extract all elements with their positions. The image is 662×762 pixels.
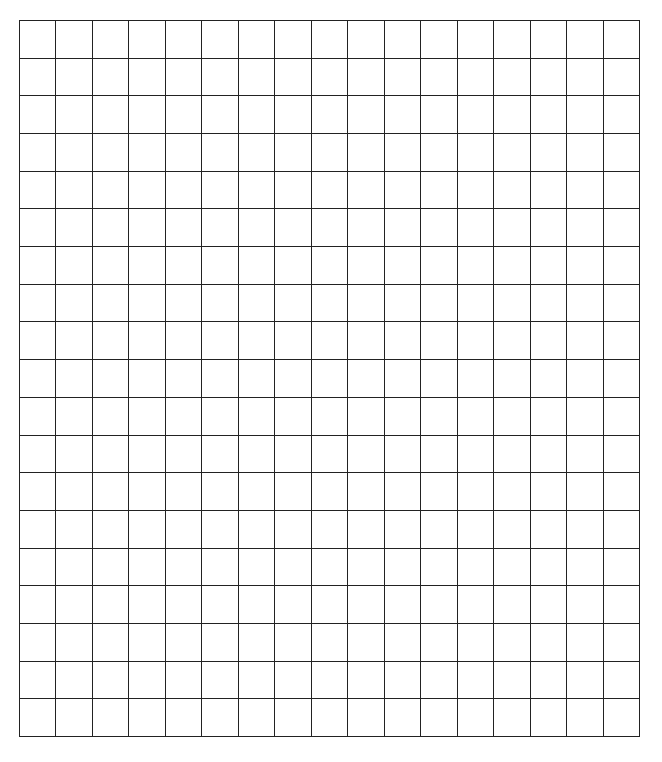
grid-cell [385,586,421,624]
grid-cell [421,436,457,474]
grid-cell [567,398,603,436]
grid-cell [275,511,311,549]
grid-cell [166,549,202,587]
grid-cell [20,322,56,360]
grid-cell [421,285,457,323]
grid-cell [129,624,165,662]
grid-cell [202,511,238,549]
grid-cell [239,398,275,436]
grid-cell [494,21,530,59]
grid-cell [385,360,421,398]
grid-cell [275,96,311,134]
grid-cell [166,473,202,511]
grid-cell [166,172,202,210]
grid-cell [20,398,56,436]
grid-cell [604,436,640,474]
grid-cell [531,699,567,737]
grid-cell [604,21,640,59]
grid-cell [531,360,567,398]
grid-cell [129,699,165,737]
grid-cell [56,511,92,549]
grid-cell [93,209,129,247]
grid-cell [239,134,275,172]
grid-cell [531,511,567,549]
grid-cell [494,247,530,285]
grid-cell [531,473,567,511]
grid-cell [202,21,238,59]
grid-cell [275,699,311,737]
grid-cell [56,247,92,285]
grid-cell [239,511,275,549]
grid-cell [93,624,129,662]
grid-paper [19,20,640,737]
grid-cell [531,59,567,97]
grid-cell [458,662,494,700]
grid-cell [567,549,603,587]
grid-cell [348,699,384,737]
grid-cell [239,549,275,587]
grid-cell [312,624,348,662]
grid-cell [312,436,348,474]
grid-cell [20,172,56,210]
grid-cell [348,549,384,587]
grid-cell [567,172,603,210]
grid-cell [458,172,494,210]
grid-cell [202,285,238,323]
grid-cell [385,247,421,285]
grid-cell [129,209,165,247]
grid-cell [20,624,56,662]
grid-cell [604,586,640,624]
grid-cell [166,96,202,134]
grid-cell [458,96,494,134]
grid-cell [312,699,348,737]
grid-cell [421,473,457,511]
grid-cell [93,511,129,549]
grid-cell [93,436,129,474]
grid-cell [166,699,202,737]
grid-cell [421,322,457,360]
grid-cell [275,59,311,97]
grid-cell [202,549,238,587]
grid-cell [129,473,165,511]
grid-cell [239,436,275,474]
grid-cell [421,360,457,398]
grid-cell [567,699,603,737]
grid-cell [20,209,56,247]
grid-cell [275,21,311,59]
grid-cell [202,134,238,172]
grid-cell [494,134,530,172]
grid-cell [531,209,567,247]
grid-cell [348,624,384,662]
grid-cell [20,59,56,97]
grid-cell [531,624,567,662]
grid-cell [202,662,238,700]
grid-cell [202,322,238,360]
grid-cell [458,134,494,172]
grid-cell [348,172,384,210]
grid-cell [385,322,421,360]
grid-cell [166,21,202,59]
grid-cell [348,285,384,323]
grid-cell [20,662,56,700]
grid-cell [129,21,165,59]
grid-cell [202,699,238,737]
grid-cell [385,436,421,474]
grid-cell [567,473,603,511]
grid-cell [567,586,603,624]
grid-cell [166,662,202,700]
grid-cell [421,511,457,549]
grid-cell [93,247,129,285]
grid-cell [421,586,457,624]
grid-cell [129,662,165,700]
grid-cell [421,699,457,737]
grid-cell [56,699,92,737]
grid-cell [20,285,56,323]
grid-cell [312,662,348,700]
grid-cell [239,209,275,247]
grid-cell [385,549,421,587]
grid-cell [239,247,275,285]
grid-cell [604,285,640,323]
grid-cell [20,436,56,474]
grid-cell [494,699,530,737]
grid-cell [56,134,92,172]
